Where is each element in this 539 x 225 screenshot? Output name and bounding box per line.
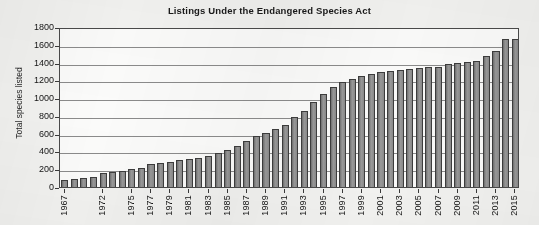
bar <box>90 177 97 187</box>
x-axis-tick-mark <box>342 189 343 193</box>
bar <box>167 162 174 187</box>
bar <box>358 76 365 187</box>
bar <box>282 125 289 187</box>
y-axis-tick-mark <box>55 99 59 100</box>
bar <box>330 87 337 187</box>
x-axis-tick-mark <box>227 189 228 193</box>
plot-area <box>59 28 519 188</box>
bar <box>100 173 107 187</box>
bar <box>397 70 404 187</box>
bar <box>301 111 308 187</box>
x-axis-tick-mark <box>102 189 103 193</box>
x-axis-tick-mark <box>514 189 515 193</box>
x-axis-tick-label: 1981 <box>183 195 193 216</box>
y-axis-tick-mark <box>55 46 59 47</box>
bar <box>291 117 298 187</box>
bar <box>377 72 384 187</box>
bar <box>243 141 250 187</box>
bar <box>262 133 269 187</box>
x-axis-tick-mark <box>476 189 477 193</box>
bar <box>368 74 375 187</box>
y-axis-tick-label: 1800 <box>20 23 54 32</box>
bar <box>224 150 231 187</box>
bar <box>416 68 423 187</box>
x-axis-tick-mark <box>169 189 170 193</box>
x-axis-tick-mark <box>131 189 132 193</box>
bar <box>157 163 164 187</box>
x-axis-tick-mark <box>457 189 458 193</box>
x-axis-tick-label: 1995 <box>318 195 328 216</box>
bar <box>492 51 499 187</box>
bar-series <box>60 29 518 187</box>
bar <box>71 179 78 187</box>
y-axis-tick-labels: 020040060080010001200140016001800 <box>20 0 54 225</box>
x-axis-tick-label: 2011 <box>471 195 481 215</box>
y-axis-tick-mark <box>55 81 59 82</box>
x-axis-tick-label: 1985 <box>222 195 232 216</box>
y-axis-tick-label: 200 <box>20 165 54 174</box>
x-axis-tick-label: 1972 <box>97 195 107 216</box>
x-axis-tick-label: 2005 <box>413 195 423 216</box>
x-axis-tick-mark <box>323 189 324 193</box>
bar <box>119 171 126 187</box>
x-axis-tick-mark <box>418 189 419 193</box>
x-axis-tick-mark <box>361 189 362 193</box>
bar <box>512 39 519 187</box>
x-axis-tick-label: 1993 <box>298 195 308 216</box>
x-axis-tick-label: 1999 <box>356 195 366 216</box>
y-axis-tick-label: 1200 <box>20 76 54 85</box>
bar <box>109 172 116 187</box>
x-axis-tick-mark <box>438 189 439 193</box>
x-axis-tick-mark <box>246 189 247 193</box>
x-axis-tick-mark <box>150 189 151 193</box>
bar <box>147 164 154 187</box>
y-axis-tick-mark <box>55 135 59 136</box>
bar <box>176 160 183 187</box>
x-axis-tick-mark <box>495 189 496 193</box>
x-axis-tick-mark <box>64 189 65 193</box>
x-axis-tick-mark <box>303 189 304 193</box>
x-axis-tick-label: 2013 <box>490 195 500 216</box>
y-axis-tick-label: 800 <box>20 112 54 121</box>
bar <box>272 129 279 187</box>
y-axis-tick-mark <box>55 152 59 153</box>
bar <box>195 158 202 187</box>
y-axis-tick-mark <box>55 188 59 189</box>
x-axis-tick-label: 2015 <box>509 195 519 216</box>
y-axis-tick-label: 400 <box>20 147 54 156</box>
bar <box>234 146 241 187</box>
chart-plot-wrapper: Total species listed 0200400600800100012… <box>0 0 539 225</box>
x-axis-tick-label: 1997 <box>337 195 347 216</box>
bar <box>310 102 317 187</box>
bar <box>425 67 432 187</box>
x-axis-tick-mark <box>208 189 209 193</box>
bar <box>138 168 145 187</box>
y-axis-tick-label: 1000 <box>20 94 54 103</box>
x-axis-tick-mark <box>265 189 266 193</box>
bar <box>349 79 356 187</box>
bar <box>320 94 327 187</box>
y-axis-tick-label: 1600 <box>20 41 54 50</box>
x-axis-tick-label: 2009 <box>452 195 462 216</box>
y-axis-tick-mark <box>55 117 59 118</box>
bar <box>502 39 509 187</box>
bar <box>483 56 490 187</box>
x-axis-tick-label: 1987 <box>241 195 251 216</box>
x-axis-tick-label: 2001 <box>375 195 385 216</box>
bar <box>435 67 442 187</box>
bar <box>339 82 346 187</box>
x-axis-tick-label: 1983 <box>203 195 213 216</box>
x-axis-tick-label: 2003 <box>394 195 404 216</box>
y-axis-tick-label: 1400 <box>20 59 54 68</box>
y-axis-tick-mark <box>55 28 59 29</box>
bar <box>128 169 135 187</box>
bar <box>445 64 452 187</box>
x-axis-tick-label: 1975 <box>126 195 136 216</box>
x-axis-tick-label: 1977 <box>145 195 155 216</box>
bar <box>80 178 87 187</box>
bar <box>464 62 471 187</box>
x-axis-tick-mark <box>284 189 285 193</box>
x-axis-tick-label: 2007 <box>433 195 443 216</box>
bar <box>253 136 260 187</box>
x-axis-tick-label: 1967 <box>59 195 69 216</box>
